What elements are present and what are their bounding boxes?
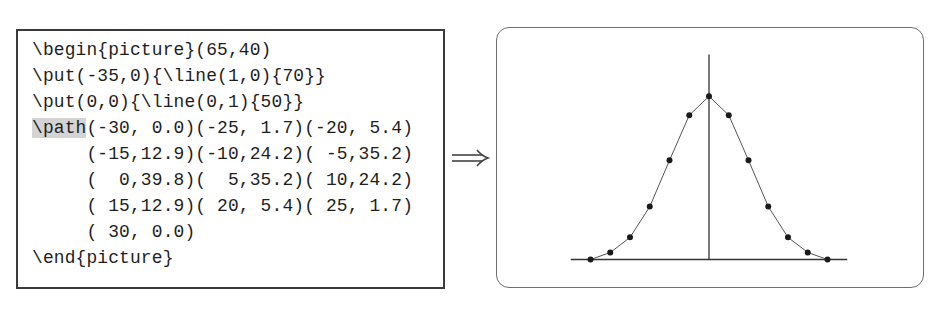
data-point-marker — [627, 234, 633, 240]
bell-curve-plot — [0, 0, 947, 310]
data-point-marker — [726, 112, 732, 118]
data-point-marker — [765, 204, 771, 210]
data-point-marker — [686, 112, 692, 118]
data-point-marker — [825, 257, 831, 263]
data-point-marker — [607, 250, 613, 256]
data-point-marker — [588, 257, 594, 263]
data-point-marker — [785, 234, 791, 240]
data-point-marker — [667, 157, 673, 163]
data-point-marker — [805, 250, 811, 256]
data-point-marker — [647, 204, 653, 210]
data-point-marker — [706, 93, 712, 99]
data-point-marker — [746, 157, 752, 163]
